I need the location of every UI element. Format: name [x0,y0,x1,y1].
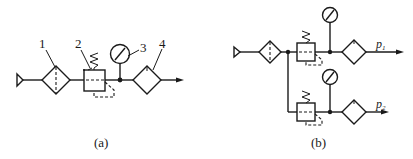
pressure-regulator-icon [297,31,322,65]
pressure-gauge-icon [323,8,338,23]
caption-b: (b) [311,135,326,150]
output-p2-label: p2 [375,97,386,112]
arrow-icon [396,50,404,55]
callout-1: 1 [39,36,46,51]
pressure-regulator-icon [83,53,114,97]
pressure-gauge-icon [111,45,130,64]
leader-line [153,49,162,70]
arrow-icon [176,78,184,83]
lubricator-icon [133,66,161,94]
filter-icon [42,66,70,94]
lubricator-icon [342,100,366,124]
diagram-a: 1 2 3 4 (a) [17,36,184,150]
output-p1-label: p1 [375,37,386,52]
caption-a: (a) [94,135,108,150]
air-source-icon [234,47,240,57]
air-source-icon [17,74,23,86]
callout-2: 2 [75,36,82,51]
callout-4: 4 [159,36,166,51]
leader-line [81,50,90,68]
filter-icon [259,41,281,63]
callout-3: 3 [140,40,147,55]
pressure-regulator-icon [297,91,322,125]
pneumatic-diagram: 1 2 3 4 (a) [0,0,413,159]
pressure-gauge-icon [323,70,338,85]
diagram-b: p1 p2 (b) [234,8,404,151]
lubricator-icon [342,40,366,64]
leader-line [46,50,55,67]
